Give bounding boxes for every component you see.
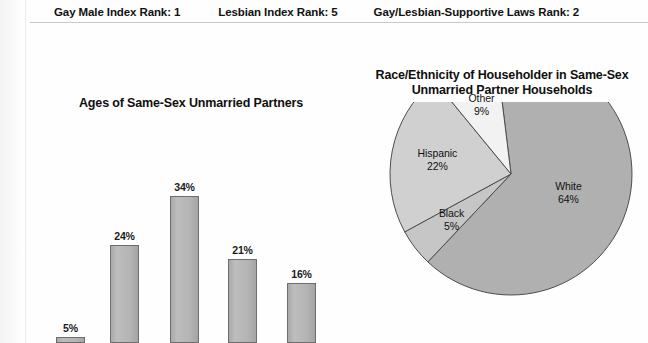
pie-chart-svg (356, 102, 648, 343)
pie-label-value: 5% (412, 220, 492, 233)
pie-label-hispanic: Hispanic22% (397, 147, 477, 173)
document-page: Gay Male Index Rank: 1 Lesbian Index Ran… (0, 0, 648, 343)
rank-strip: Gay Male Index Rank: 1 Lesbian Index Ran… (26, 0, 648, 24)
bar-chart-title: Ages of Same-Sex Unmarried Partners (26, 96, 356, 111)
pie-chart-panel: Race/Ethnicity of Householder in Same-Se… (356, 60, 648, 343)
pie-label-value: 9% (441, 105, 521, 118)
pie-label-black: Black5% (412, 207, 492, 233)
pie-label-other: Other9% (441, 92, 521, 118)
bar-4 (287, 283, 316, 343)
bar-value-label-2: 34% (159, 181, 210, 193)
bar-1 (110, 245, 139, 343)
pie-label-name: Other (441, 92, 521, 105)
pie-label-value: 64% (528, 193, 608, 206)
bar-0 (56, 337, 85, 343)
rank-supportive-laws: Gay/Lesbian-Supportive Laws Rank: 2 (374, 6, 579, 18)
bar-3 (228, 259, 257, 343)
header-divider (30, 22, 648, 23)
pie-label-name: Hispanic (397, 147, 477, 160)
bar-value-label-3: 21% (217, 244, 268, 256)
bar-2 (170, 196, 199, 343)
pie-label-white: White64% (528, 180, 608, 206)
bar-chart-plot: 5%24%34%21%16% (26, 125, 356, 343)
bar-chart-panel: Ages of Same-Sex Unmarried Partners 5%24… (26, 84, 356, 343)
rank-gay-male-index: Gay Male Index Rank: 1 (54, 6, 180, 18)
bar-value-label-4: 16% (276, 268, 327, 280)
pie-label-name: Black (412, 207, 492, 220)
bar-value-label-1: 24% (99, 230, 150, 242)
pie-chart-plot: White64%Black5%Hispanic22%Other9% (356, 102, 648, 343)
pie-label-name: White (528, 180, 608, 193)
rank-lesbian-index: Lesbian Index Rank: 5 (218, 6, 337, 18)
pie-label-value: 22% (397, 160, 477, 173)
page-gutter-shadow (0, 0, 26, 343)
bar-value-label-0: 5% (45, 322, 96, 334)
